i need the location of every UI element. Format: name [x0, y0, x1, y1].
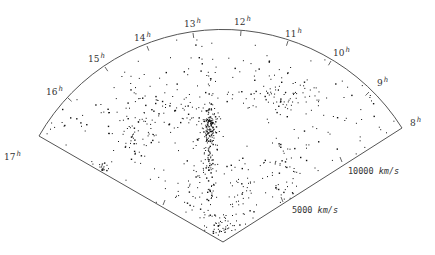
- galaxy-point: [227, 228, 228, 229]
- galaxy-point: [263, 163, 264, 164]
- galaxy-point: [186, 97, 187, 98]
- galaxy-point: [104, 169, 105, 170]
- galaxy-point: [256, 204, 257, 205]
- galaxy-point: [205, 147, 206, 148]
- galaxy-point: [180, 122, 181, 123]
- galaxy-point: [101, 112, 102, 113]
- galaxy-point: [113, 150, 114, 151]
- galaxy-point: [275, 187, 276, 188]
- galaxy-point: [196, 108, 197, 109]
- galaxy-point: [243, 103, 244, 104]
- galaxy-point: [333, 116, 334, 117]
- galaxy-point: [211, 143, 212, 144]
- galaxy-point: [204, 217, 205, 218]
- galaxy-point: [50, 129, 51, 130]
- velocity-ticks: [101, 157, 342, 205]
- galaxy-point: [208, 120, 209, 121]
- galaxy-point: [208, 155, 209, 156]
- galaxy-point: [208, 126, 209, 127]
- galaxy-point: [205, 92, 206, 93]
- galaxy-point: [285, 189, 286, 190]
- galaxy-point: [178, 195, 179, 196]
- hour-label-12: 12h: [234, 15, 251, 27]
- galaxy-point: [286, 182, 287, 183]
- galaxy-point: [125, 147, 126, 148]
- galaxy-point: [134, 128, 135, 129]
- galaxy-point: [231, 170, 232, 171]
- galaxy-point: [232, 215, 233, 216]
- galaxy-point: [178, 183, 179, 184]
- galaxy-point: [234, 225, 235, 226]
- galaxy-point: [130, 83, 131, 84]
- galaxy-point: [217, 118, 218, 119]
- galaxy-point: [213, 140, 214, 141]
- galaxy-point: [208, 112, 209, 113]
- galaxy-point: [205, 159, 206, 160]
- galaxy-point: [201, 111, 202, 112]
- galaxy-point: [204, 212, 205, 213]
- galaxy-point: [157, 100, 158, 101]
- galaxy-point: [214, 124, 215, 125]
- galaxy-point: [332, 160, 333, 161]
- galaxy-point: [356, 153, 357, 154]
- galaxy-point: [116, 98, 117, 99]
- galaxy-point: [195, 44, 196, 45]
- galaxy-point: [100, 104, 101, 105]
- galaxy-point: [216, 119, 217, 120]
- galaxy-point: [309, 96, 310, 97]
- galaxy-point: [124, 72, 125, 73]
- galaxy-point: [151, 109, 152, 110]
- galaxy-point: [290, 98, 291, 99]
- galaxy-point: [193, 141, 194, 142]
- galaxy-point: [298, 138, 299, 139]
- galaxy-point: [162, 106, 163, 107]
- galaxy-point: [279, 86, 280, 87]
- galaxy-point: [210, 153, 211, 154]
- galaxy-point: [294, 148, 295, 149]
- galaxy-point: [211, 122, 212, 123]
- galaxy-point: [211, 193, 212, 194]
- galaxy-point: [208, 159, 209, 160]
- galaxy-point: [281, 82, 282, 83]
- galaxy-point: [202, 193, 203, 194]
- galaxy-point: [271, 93, 272, 94]
- galaxy-point: [314, 87, 315, 88]
- galaxy-point: [191, 57, 192, 58]
- galaxy-point: [292, 193, 293, 194]
- galaxy-point: [337, 117, 338, 118]
- galaxy-point: [142, 98, 143, 99]
- galaxy-point: [197, 85, 198, 86]
- galaxy-point: [208, 117, 209, 118]
- galaxy-point: [190, 102, 191, 103]
- galaxy-point: [146, 145, 147, 146]
- galaxy-point: [209, 216, 210, 217]
- galaxy-point: [232, 206, 233, 207]
- galaxy-point: [150, 128, 151, 129]
- galaxy-point: [206, 199, 207, 200]
- galaxy-point: [153, 111, 154, 112]
- galaxy-point: [209, 136, 210, 137]
- galaxy-point: [275, 164, 276, 165]
- galaxy-point: [190, 184, 191, 185]
- galaxy-point: [64, 126, 65, 127]
- galaxy-point: [275, 89, 276, 90]
- galaxy-point: [207, 110, 208, 111]
- galaxy-point: [210, 146, 211, 147]
- galaxy-point: [342, 81, 343, 82]
- galaxy-point: [211, 108, 212, 109]
- galaxy-point: [241, 91, 242, 92]
- galaxy-point: [206, 227, 207, 228]
- galaxy-point: [224, 232, 225, 233]
- galaxy-point: [204, 153, 205, 154]
- galaxy-point: [328, 132, 329, 133]
- galaxy-point: [172, 96, 173, 97]
- galaxy-point: [164, 122, 165, 123]
- galaxy-point: [287, 149, 288, 150]
- galaxy-point: [211, 195, 212, 196]
- galaxy-point: [228, 221, 229, 222]
- galaxy-point: [185, 106, 186, 107]
- galaxy-point: [241, 183, 242, 184]
- galaxy-point: [203, 121, 204, 122]
- galaxy-point: [213, 191, 214, 192]
- galaxy-point: [132, 126, 133, 127]
